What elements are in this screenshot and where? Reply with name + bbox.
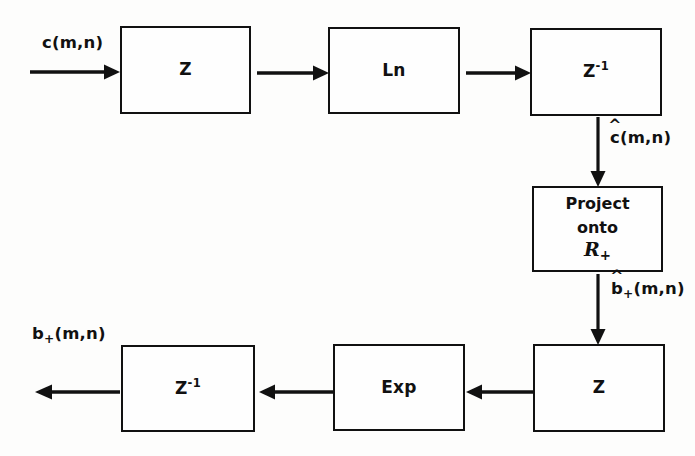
block-label-exp: Exp bbox=[381, 377, 417, 398]
block-label-project-line3: R+ bbox=[584, 238, 611, 263]
block-label-ln: Ln bbox=[382, 60, 406, 81]
block-label-z-inverse-top-exponent: -1 bbox=[596, 60, 609, 74]
signal-label-cepstrum: ^c(m,n) bbox=[610, 128, 671, 147]
signal-min-phase-args: (m,n) bbox=[633, 279, 684, 298]
script-r-subscript: + bbox=[600, 249, 611, 264]
block-label-z-inverse-bottom-base: Z bbox=[175, 378, 188, 398]
arrow-ln-to-z-inverse bbox=[466, 64, 533, 82]
signal-min-phase-base-wrap: ^b bbox=[611, 279, 623, 298]
arrow-z-inverse-to-project bbox=[589, 117, 607, 189]
block-label-z-inverse-bottom: Z-1 bbox=[175, 378, 201, 399]
signal-input-base-wrap: c bbox=[42, 33, 52, 52]
block-label-z-forward-top: Z bbox=[179, 59, 192, 80]
signal-output-base-wrap: b bbox=[32, 324, 44, 343]
block-label-z-inverse-top-base: Z bbox=[583, 61, 596, 81]
arrow-z-to-ln bbox=[257, 64, 331, 82]
signal-output-subscript: + bbox=[44, 332, 54, 346]
signal-input-args: (m,n) bbox=[52, 33, 103, 52]
signal-label-input: c(m,n) bbox=[42, 33, 103, 52]
arrow-project-to-z-forward bbox=[589, 274, 607, 347]
block-label-z-inverse-top: Z-1 bbox=[583, 61, 609, 82]
block-ln: Ln bbox=[328, 27, 460, 114]
signal-output-base: b bbox=[32, 324, 44, 343]
signal-input-base: c bbox=[42, 33, 52, 52]
hat-accent-min-phase: ^ bbox=[610, 268, 623, 284]
block-label-project-line1: Project bbox=[565, 194, 629, 213]
arrow-output bbox=[30, 383, 122, 401]
block-label-project-line2: onto bbox=[577, 218, 618, 237]
signal-label-min-phase: ^b+(m,n) bbox=[611, 279, 685, 298]
arrow-z-forward-to-exp bbox=[466, 383, 536, 401]
block-project: Project onto R+ bbox=[532, 186, 663, 272]
script-r-symbol: R bbox=[584, 238, 600, 260]
block-label-z-forward-bottom: Z bbox=[593, 377, 606, 398]
block-z-inverse-top: Z-1 bbox=[530, 28, 662, 116]
signal-output-args: (m,n) bbox=[54, 324, 105, 343]
arrow-exp-to-z-inverse bbox=[259, 383, 335, 401]
block-z-inverse-bottom: Z-1 bbox=[121, 345, 255, 432]
hat-accent-cepstrum: ^ bbox=[608, 117, 621, 133]
signal-label-output: b+(m,n) bbox=[32, 324, 106, 343]
arrow-input bbox=[30, 63, 122, 81]
signal-cepstrum-base-wrap: ^c bbox=[610, 128, 620, 147]
signal-cepstrum-args: (m,n) bbox=[620, 128, 671, 147]
block-z-forward-bottom: Z bbox=[533, 344, 665, 432]
block-diagram-canvas: Z Ln Z-1 Project onto R+ Z Exp Z-1 c(m,n… bbox=[0, 0, 695, 456]
signal-min-phase-subscript: + bbox=[623, 287, 633, 301]
block-label-z-inverse-bottom-exponent: -1 bbox=[188, 376, 201, 390]
block-exp: Exp bbox=[333, 344, 465, 431]
block-z-forward-top: Z bbox=[120, 26, 251, 114]
